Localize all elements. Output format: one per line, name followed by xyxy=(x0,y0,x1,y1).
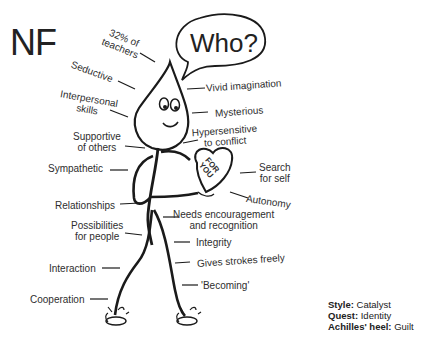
label-search-for-self: Search for self xyxy=(259,162,291,184)
label-interaction: Interaction xyxy=(49,263,96,274)
achilles-heel-row: Achilles' heel: Guilt xyxy=(328,321,414,332)
speech-bubble-text: Who? xyxy=(190,28,258,59)
label-integrity: Integrity xyxy=(196,237,232,248)
label-sympathetic: Sympathetic xyxy=(48,163,103,174)
temperament-info: Style: Catalyst Quest: Identity Achilles… xyxy=(328,299,414,332)
label-cooperation: Cooperation xyxy=(30,294,84,305)
leader-lines-left xyxy=(90,53,155,299)
temperament-title: NF xyxy=(10,22,56,64)
label-relationships: Relationships xyxy=(55,200,115,211)
right-arm xyxy=(150,193,198,197)
right-foot xyxy=(177,317,197,325)
left-foot xyxy=(106,317,126,325)
label-hypersensitive-to-conflict: Hypersensitive to conflict xyxy=(191,123,258,150)
style-row: Style: Catalyst xyxy=(328,299,414,310)
label-supportive-of-others: Supportive of others xyxy=(73,131,121,153)
label-becoming: 'Becoming' xyxy=(201,280,249,291)
label-possibilities-for-people: Possibilities for people xyxy=(71,220,123,242)
nf-temperament-diagram: NF Who? FOR YOU 32% of teachers Seductiv… xyxy=(0,0,435,350)
label-needs-encouragement-recognition: Needs encouragement and recognition xyxy=(173,209,274,231)
quest-row: Quest: Identity xyxy=(328,310,414,321)
